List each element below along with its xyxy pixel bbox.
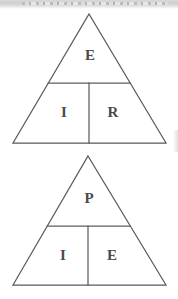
figure-page: E I R P I E [0,0,178,299]
formula-triangle-eir: E I R P I E [0,0,178,299]
triangle-2-outline [13,156,166,285]
triangle-1-bottom-right-label: R [108,104,119,120]
triangle-2-bottom-right-label: E [107,247,117,263]
triangle-2-bottom-left-label: I [60,247,66,263]
triangle-2-top-label: P [84,190,93,206]
triangle-1-top-label: E [85,47,95,63]
triangle-1-bottom-left-label: I [61,104,67,120]
